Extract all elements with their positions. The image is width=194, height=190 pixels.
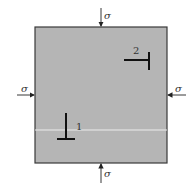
crystal-block <box>35 27 167 163</box>
right-stress-label: σ <box>175 83 183 94</box>
bottom-stress-label: σ <box>104 168 112 179</box>
left-stress-label: σ <box>21 83 29 94</box>
top-stress-label: σ <box>104 10 112 21</box>
dislocation-1-label: 1 <box>76 121 82 132</box>
dislocation-2-label: 2 <box>133 45 139 56</box>
stress-diagram: σ σ σ σ 1 2 <box>0 0 194 190</box>
